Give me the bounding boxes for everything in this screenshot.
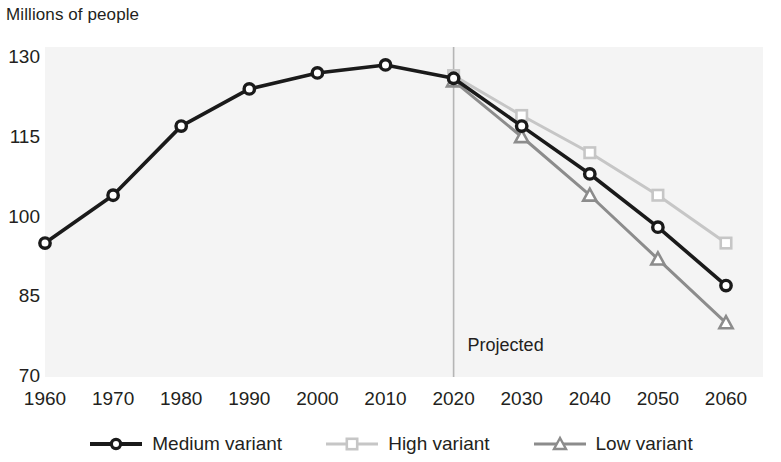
legend-label: High variant [388,433,489,455]
x-tick-label: 2030 [501,388,543,410]
x-tick-label: 2050 [637,388,679,410]
y-tick-label: 115 [0,126,40,148]
x-tick-label: 1960 [24,388,66,410]
x-tick-label: 2000 [296,388,338,410]
x-tick-label: 2020 [432,388,474,410]
legend-item-low-variant[interactable]: Low variant [532,433,693,455]
chart-legend: Medium variantHigh variantLow variant [0,427,781,460]
legend-label: Low variant [596,433,693,455]
legend-item-medium-variant[interactable]: Medium variant [88,433,282,455]
square-marker-icon [324,435,380,453]
x-tick-label: 2010 [364,388,406,410]
triangle-marker-icon [532,435,588,453]
projected-annotation: Projected [468,335,544,356]
y-tick-label: 100 [0,206,40,228]
y-tick-label: 70 [0,365,40,387]
y-axis-title: Millions of people [6,5,139,25]
y-tick-label: 130 [0,46,40,68]
x-tick-label: 1990 [228,388,270,410]
legend-item-high-variant[interactable]: High variant [324,433,489,455]
x-tick-label: 2040 [569,388,611,410]
circle-marker-icon [88,435,144,453]
x-tick-label: 2060 [705,388,747,410]
plot-area [45,47,763,377]
chart-container: Millions of people 1301151008570 1960197… [0,0,781,462]
legend-label: Medium variant [152,433,282,455]
x-tick-label: 1970 [92,388,134,410]
y-tick-label: 85 [0,285,40,307]
x-tick-label: 1980 [160,388,202,410]
